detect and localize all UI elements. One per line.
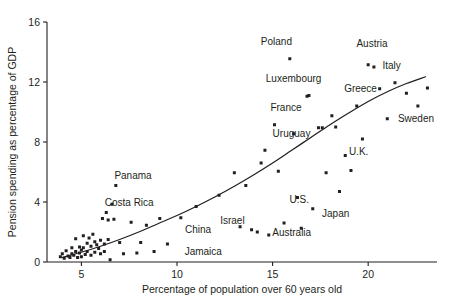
data-point xyxy=(349,169,352,172)
data-point xyxy=(89,254,92,257)
data-point xyxy=(65,249,68,252)
data-point xyxy=(107,219,110,222)
country-label: Austria xyxy=(356,38,388,49)
data-point xyxy=(372,66,375,69)
data-point xyxy=(218,194,221,197)
data-point xyxy=(139,241,142,244)
data-point xyxy=(72,254,75,257)
data-point xyxy=(93,240,96,243)
data-point xyxy=(166,243,169,246)
axis-titles: Percentage of population over 60 years o… xyxy=(6,47,342,295)
data-point xyxy=(250,228,253,231)
data-point xyxy=(273,123,276,126)
country-label: Jamaica xyxy=(185,246,223,257)
data-point xyxy=(233,171,236,174)
data-point xyxy=(59,255,62,258)
data-point xyxy=(367,63,370,66)
data-point xyxy=(105,211,108,214)
data-point xyxy=(93,251,96,254)
country-label: Uruguay xyxy=(273,128,311,139)
data-point xyxy=(118,241,121,244)
country-label: Luxembourg xyxy=(266,73,322,84)
data-point xyxy=(260,162,263,165)
country-label: Japan xyxy=(322,208,349,219)
data-point xyxy=(244,184,247,187)
trend-curve xyxy=(62,77,425,258)
trend-line xyxy=(62,77,425,258)
data-point xyxy=(101,217,104,220)
data-point xyxy=(86,242,89,245)
data-point xyxy=(145,224,148,227)
y-tick-label: 16 xyxy=(28,16,40,28)
x-tick-label: 15 xyxy=(267,268,279,280)
data-point xyxy=(330,114,333,117)
x-axis-title: Percentage of population over 60 years o… xyxy=(142,283,342,295)
data-point xyxy=(122,252,125,255)
data-point xyxy=(99,239,102,242)
data-point xyxy=(130,221,133,224)
data-point xyxy=(405,92,408,95)
data-point xyxy=(256,231,259,234)
data-point xyxy=(325,171,328,174)
country-label: U.S. xyxy=(290,194,309,205)
data-point xyxy=(355,105,358,108)
x-tick-label: 10 xyxy=(171,268,183,280)
data-point xyxy=(82,246,85,249)
axis-tick-labels: 04812165101520 xyxy=(28,16,374,280)
country-label: China xyxy=(185,224,212,235)
country-label: France xyxy=(270,102,302,113)
data-point xyxy=(179,216,182,219)
data-point xyxy=(277,170,280,173)
data-point xyxy=(317,126,320,129)
country-label: U.K. xyxy=(349,146,368,157)
data-point xyxy=(109,258,112,261)
data-point xyxy=(89,245,92,248)
country-label: Australia xyxy=(272,227,311,238)
data-point xyxy=(393,81,396,84)
data-point xyxy=(61,252,64,255)
data-point xyxy=(78,252,81,255)
y-tick-label: 12 xyxy=(28,76,40,88)
data-point xyxy=(135,252,138,255)
y-tick-label: 4 xyxy=(34,196,40,208)
data-point xyxy=(263,149,266,152)
data-point xyxy=(153,250,156,253)
data-point xyxy=(63,257,66,260)
data-point xyxy=(195,205,198,208)
data-point xyxy=(103,250,106,253)
data-point xyxy=(334,126,337,129)
chart-canvas: 04812165101520 PolandAustriaItalyLuxembo… xyxy=(0,0,451,302)
data-point xyxy=(416,105,419,108)
data-point xyxy=(95,243,98,246)
country-label: Costa Rica xyxy=(105,197,154,208)
data-point xyxy=(158,217,161,220)
data-point xyxy=(426,87,429,90)
point-annotations: PolandAustriaItalyLuxembourgGreeceSweden… xyxy=(105,36,434,257)
country-label: Poland xyxy=(261,36,292,47)
data-point xyxy=(84,253,87,256)
data-point xyxy=(311,207,314,210)
data-point xyxy=(68,256,71,259)
data-point xyxy=(307,94,310,97)
data-point xyxy=(99,252,102,255)
data-point xyxy=(70,246,73,249)
data-point xyxy=(361,138,364,141)
data-point xyxy=(74,250,77,253)
data-point xyxy=(321,126,324,129)
data-point xyxy=(86,250,89,253)
country-label: Panama xyxy=(114,170,152,181)
data-point xyxy=(107,238,110,241)
data-point xyxy=(112,218,115,221)
plot-layers: 04812165101520 PolandAustriaItalyLuxembo… xyxy=(6,16,437,295)
data-point xyxy=(338,190,341,193)
data-point xyxy=(78,246,81,249)
data-point xyxy=(80,255,83,258)
data-point xyxy=(288,57,291,60)
data-point xyxy=(82,234,85,237)
data-point xyxy=(378,87,381,90)
country-label: Sweden xyxy=(398,113,434,124)
data-point xyxy=(344,154,347,157)
data-point xyxy=(103,243,106,246)
data-point xyxy=(91,233,94,236)
country-label: Greece xyxy=(344,83,377,94)
